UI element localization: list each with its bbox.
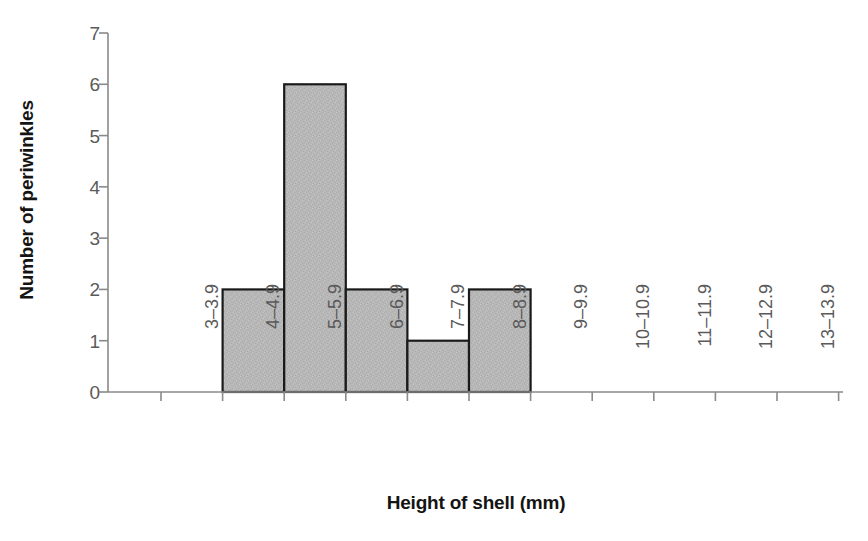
x-tick-label: 13–13.9 [817,284,839,404]
x-tick-label: 9–9.9 [570,284,592,404]
x-tick-label: 7–7.9 [447,284,469,404]
plot-area [0,0,868,541]
x-tick-label: 12–12.9 [755,284,777,404]
x-tick-label: 3–3.9 [201,284,223,404]
histogram-chart: Number of periwinkles 01234567 3–3.94–4.… [0,0,868,541]
x-tick-label: 6–6.9 [386,284,408,404]
x-tick-label: 5–5.9 [324,284,346,404]
x-tick-label: 4–4.9 [262,284,284,404]
x-tick-label: 10–10.9 [632,284,654,404]
x-tick-label: 11–11.9 [694,284,716,404]
x-tick-label: 8–8.9 [509,284,531,404]
y-axis-tick-marks [99,33,108,392]
x-axis-title: Height of shell (mm) [108,492,844,514]
